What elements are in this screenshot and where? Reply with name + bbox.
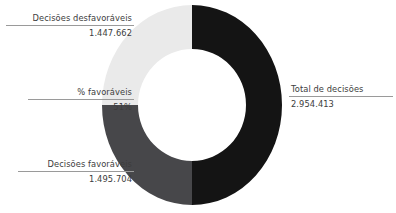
callout-total-de-decisoes: Total de decisões 2.954.413 [289, 84, 393, 109]
callout-value: 1.447.662 [6, 26, 134, 38]
donut-slice-decisoes-favoraveis [102, 105, 192, 205]
callout-value: 2.954.413 [289, 97, 393, 109]
callout-label: Decisões desfavoráveis [6, 13, 134, 25]
callout-decisoes-favoraveis: Decisões favoráveis 1.495.704 [18, 159, 134, 184]
callout-value: 1.495.704 [18, 172, 134, 184]
callout-label: Total de decisões [289, 84, 393, 96]
callout-label: Decisões favoráveis [18, 159, 134, 171]
callout-decisoes-desfavoraveis: Decisões desfavoráveis 1.447.662 [6, 13, 134, 38]
donut-chart: Decisões desfavoráveis 1.447.662 % favor… [0, 0, 396, 213]
callout-label: % favoráveis [28, 87, 134, 99]
donut-slice-total-de-decisoes [192, 5, 282, 205]
callout-percent-favoraveis: % favoráveis 51% [28, 87, 134, 112]
callout-value: 51% [28, 100, 134, 112]
